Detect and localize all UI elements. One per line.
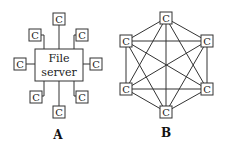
diagram-a: File server C C C C C C C [14, 13, 102, 142]
client-top: C [53, 13, 65, 25]
svg-text:C: C [32, 92, 40, 103]
client-upper-left: C [29, 29, 41, 41]
svg-text:C: C [162, 13, 170, 24]
peer-upper-right: C [201, 35, 213, 47]
svg-text:C: C [78, 92, 86, 103]
svg-text:C: C [162, 107, 170, 118]
diagram-b: C C C C C C B [120, 12, 213, 140]
peer-bottom: C [160, 106, 172, 118]
diagram-a-label: A [52, 128, 63, 142]
svg-text:C: C [203, 84, 211, 95]
svg-text:C: C [122, 36, 130, 47]
peer-lower-left: C [120, 83, 132, 95]
svg-text:C: C [92, 59, 100, 70]
client-lower-left: C [30, 91, 42, 103]
client-bottom: C [53, 106, 65, 118]
diagram-b-label: B [161, 126, 171, 140]
peer-top: C [160, 12, 172, 24]
diagram-b-connections [126, 18, 207, 112]
client-upper-right: C [76, 29, 88, 41]
svg-text:C: C [78, 30, 86, 41]
client-lower-right: C [76, 91, 88, 103]
client-left: C [14, 58, 26, 70]
network-diagrams: File server C C C C C C C [0, 0, 226, 143]
svg-text:C: C [55, 14, 63, 25]
svg-text:C: C [203, 36, 211, 47]
svg-text:C: C [55, 107, 63, 118]
svg-text:C: C [122, 84, 130, 95]
client-right: C [90, 58, 102, 70]
file-server-label-line1: File [48, 52, 69, 65]
file-server: File server [35, 49, 83, 81]
svg-text:C: C [16, 59, 24, 70]
svg-text:C: C [31, 30, 39, 41]
peer-upper-left: C [120, 35, 132, 47]
file-server-label-line2: server [41, 66, 77, 79]
peer-lower-right: C [201, 83, 213, 95]
